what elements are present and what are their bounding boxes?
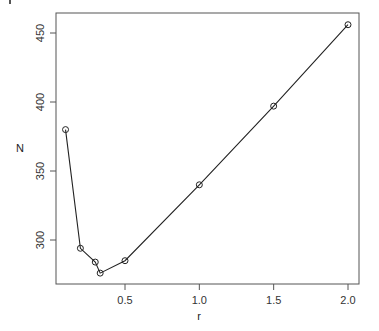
series-line (66, 25, 348, 273)
y-tick-label: 450 (34, 24, 46, 42)
y-axis-label: N (16, 142, 24, 154)
y-axis: 300350400450 (34, 24, 56, 249)
x-axis: 0.51.01.52.0 (117, 284, 355, 306)
y-tick-label: 350 (34, 162, 46, 180)
x-tick-label: 1.5 (266, 294, 281, 306)
x-tick-label: 0.5 (117, 294, 132, 306)
y-tick-label: 300 (34, 231, 46, 249)
x-tick-label: 1.0 (192, 294, 207, 306)
plot-frame (56, 13, 359, 284)
series-markers (63, 22, 351, 276)
x-tick-label: 2.0 (340, 294, 355, 306)
line-chart: 0.51.01.52.0 300350400450 r N (0, 0, 379, 331)
y-tick-label: 400 (34, 93, 46, 111)
x-axis-label: r (197, 310, 201, 322)
